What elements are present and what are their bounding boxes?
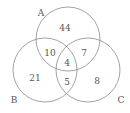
set-a-label: A bbox=[37, 8, 45, 18]
region-a-c: 7 bbox=[81, 48, 87, 58]
region-a-b: 10 bbox=[44, 48, 56, 58]
venn-diagram: A B C 44 10 7 4 21 5 8 bbox=[0, 0, 130, 113]
region-c-only: 8 bbox=[94, 76, 100, 86]
venn-svg: A B C 44 10 7 4 21 5 8 bbox=[0, 0, 130, 113]
region-b-c: 5 bbox=[64, 77, 70, 87]
set-c-label: C bbox=[118, 95, 125, 105]
region-a-only: 44 bbox=[59, 23, 71, 33]
set-c-circle bbox=[56, 38, 120, 102]
region-a-b-c: 4 bbox=[64, 58, 70, 68]
region-b-only: 21 bbox=[29, 73, 40, 83]
set-b-label: B bbox=[11, 95, 18, 105]
